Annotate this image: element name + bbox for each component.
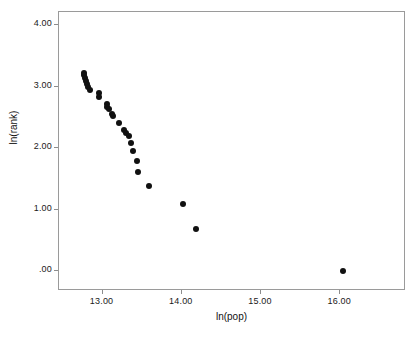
y-axis-tick-label: 2.00 bbox=[16, 141, 52, 151]
x-axis-tick-label: 16.00 bbox=[317, 296, 361, 306]
data-point bbox=[340, 268, 346, 274]
data-point bbox=[110, 113, 116, 119]
y-axis-tick-label: 3.00 bbox=[16, 80, 52, 90]
data-point bbox=[128, 140, 134, 146]
data-point bbox=[180, 201, 186, 207]
x-axis-tick-label: 15.00 bbox=[238, 296, 282, 306]
data-points-layer bbox=[59, 12, 404, 289]
y-axis-tick-label: 1.00 bbox=[16, 203, 52, 213]
y-axis-tick-label: .00 bbox=[16, 264, 52, 274]
data-point bbox=[87, 87, 93, 93]
data-point bbox=[126, 133, 132, 139]
x-axis-tick bbox=[339, 290, 340, 294]
data-point bbox=[135, 169, 141, 175]
data-point bbox=[116, 120, 122, 126]
data-point bbox=[96, 94, 102, 100]
x-axis-tick bbox=[260, 290, 261, 294]
x-axis-tick-label: 14.00 bbox=[159, 296, 203, 306]
y-axis: 4.003.002.001.00.00 bbox=[12, 0, 52, 337]
y-axis-tick-label: 4.00 bbox=[16, 18, 52, 28]
y-axis-tick bbox=[54, 209, 58, 210]
x-axis-tick bbox=[102, 290, 103, 294]
y-axis-tick bbox=[54, 24, 58, 25]
scatter-plot-figure: 4.003.002.001.00.00 ln(pop) ln(rank) 13.… bbox=[0, 0, 419, 337]
data-point bbox=[130, 148, 136, 154]
x-axis-tick-label: 13.00 bbox=[80, 296, 124, 306]
data-point bbox=[134, 158, 140, 164]
data-point bbox=[193, 226, 199, 232]
y-axis-tick bbox=[54, 86, 58, 87]
y-axis-tick bbox=[54, 270, 58, 271]
data-point bbox=[146, 183, 152, 189]
y-axis-title: ln(rank) bbox=[8, 93, 19, 163]
plot-area bbox=[58, 11, 405, 290]
x-axis-title: ln(pop) bbox=[58, 311, 405, 322]
x-axis-tick bbox=[181, 290, 182, 294]
y-axis-tick bbox=[54, 147, 58, 148]
